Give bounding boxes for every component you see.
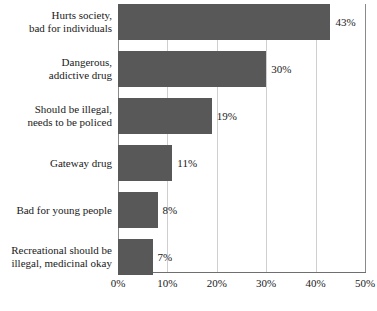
category-label-line: illegal, medicinal okay [12, 257, 113, 270]
bar-value-label: 11% [177, 158, 197, 169]
category-label-line: Gateway drug [50, 157, 112, 170]
bars-layer: 43%30%19%11%8%7% [118, 4, 365, 272]
bar-value-label: 30% [271, 64, 291, 75]
bar-value-label: 8% [163, 205, 178, 216]
category-label-line: addictive drug [49, 69, 112, 82]
category-label: Recreational should beillegal, medicinal… [0, 239, 112, 275]
category-label-line: Recreational should be [11, 244, 112, 257]
category-label: Hurts society,bad for individuals [0, 4, 112, 40]
bar-row: 7% [118, 239, 365, 275]
category-label: Should be illegal,needs to be policed [0, 98, 112, 134]
category-label: Gateway drug [0, 145, 112, 181]
bar [118, 4, 330, 40]
category-label-line: Dangerous, [62, 56, 112, 69]
x-tick-label: 0% [111, 276, 126, 290]
category-label-line: bad for individuals [29, 22, 112, 35]
bar [118, 145, 172, 181]
category-label-line: needs to be policed [27, 116, 112, 129]
gridline-50pct [365, 4, 366, 272]
bar-row: 19% [118, 98, 365, 134]
category-label: Bad for young people [0, 192, 112, 228]
category-label: Dangerous,addictive drug [0, 51, 112, 87]
bar-row: 30% [118, 51, 365, 87]
x-tick-label-layer: 0%10%20%30%40%50% [118, 276, 365, 296]
x-tick-label: 20% [207, 276, 227, 290]
x-tick-label: 30% [256, 276, 276, 290]
category-label-line: Hurts society, [52, 9, 112, 22]
category-label-layer: Hurts society,bad for individualsDangero… [0, 4, 112, 272]
bar-row: 43% [118, 4, 365, 40]
x-tick-label: 10% [157, 276, 177, 290]
bar [118, 98, 212, 134]
x-tick-label: 40% [306, 276, 326, 290]
bar [118, 51, 266, 87]
bar-chart: 43%30%19%11%8%7% Hurts society,bad for i… [0, 0, 377, 311]
category-label-line: Should be illegal, [35, 103, 112, 116]
category-label-line: Bad for young people [16, 204, 112, 217]
bar-value-label: 43% [335, 17, 355, 28]
bar [118, 239, 153, 275]
bar-row: 8% [118, 192, 365, 228]
bar-value-label: 19% [217, 111, 237, 122]
bar-value-label: 7% [158, 252, 173, 263]
x-tick-label: 50% [355, 276, 375, 290]
bar-row: 11% [118, 145, 365, 181]
bar [118, 192, 158, 228]
